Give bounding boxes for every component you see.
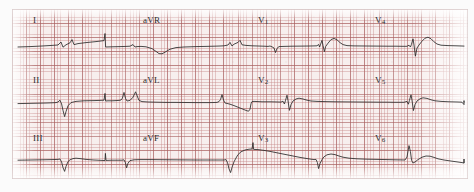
- lead-label-I: I: [33, 16, 36, 27]
- lead-label-V2: V2: [258, 76, 268, 87]
- ecg-screenshot: I aVR V1 V4 II aVL V2 V5 III aVF V3 V6: [0, 0, 474, 192]
- lead-label-aVL: aVL: [143, 76, 160, 87]
- lead-label-V5: V5: [375, 76, 385, 87]
- lead-label-V4: V4: [375, 16, 385, 27]
- ecg-paper: [12, 9, 468, 179]
- lead-label-aVR: aVR: [143, 16, 160, 27]
- lead-label-V6: V6: [375, 134, 385, 145]
- lead-label-aVF: aVF: [143, 134, 159, 145]
- lead-label-II: II: [33, 76, 39, 87]
- lead-label-III: III: [33, 134, 43, 145]
- lead-label-V1: V1: [258, 16, 268, 27]
- lead-label-V3: V3: [258, 134, 268, 145]
- ecg-grid-bold: [12, 9, 468, 179]
